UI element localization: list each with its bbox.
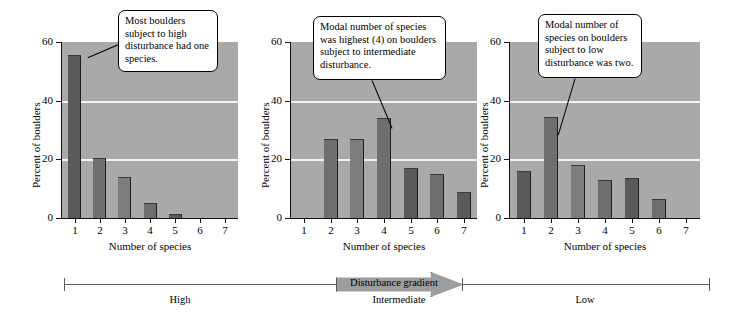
x-tick-label-4: 4 [598, 225, 612, 236]
gradient-line-right [462, 284, 709, 285]
x-tick-1 [304, 219, 305, 223]
y-tick-label-0: 0 [479, 212, 501, 223]
x-tick-label-7: 7 [457, 225, 471, 236]
x-tick-2 [331, 219, 332, 223]
x-tick-label-3: 3 [350, 225, 364, 236]
x-tick-5 [411, 219, 412, 223]
y-tick-label-0: 0 [31, 212, 53, 223]
x-tick-label-2: 2 [544, 225, 558, 236]
x-tick-3 [357, 219, 358, 223]
x-axis-label-2: Number of species [291, 240, 477, 252]
gridline-40 [510, 101, 700, 103]
x-tick-6 [659, 219, 660, 223]
gradient-tier-high: High [140, 294, 220, 305]
x-tick-label-4: 4 [143, 225, 157, 236]
bar-3 [118, 177, 131, 218]
callout-low-disturbance: Modal number of species on boulders subj… [538, 14, 642, 78]
x-tick-label-4: 4 [377, 225, 391, 236]
y-tick-40 [285, 101, 290, 102]
x-tick-3 [125, 219, 126, 223]
gradient-arrow-label: Disturbance gradient [339, 277, 449, 288]
callout-intermediate-disturbance: Modal number of species was highest (4) … [313, 16, 446, 80]
disturbance-gradient-axis: Disturbance gradient High Intermediate L… [0, 258, 733, 312]
y-tick-label-60: 60 [260, 36, 282, 47]
bar-3 [350, 139, 364, 218]
y-axis-label-3: Percent of boulders [478, 102, 490, 188]
y-tick-label-20: 20 [31, 153, 53, 164]
gridline-40 [62, 101, 238, 103]
x-tick-label-6: 6 [652, 225, 666, 236]
bar-6 [430, 174, 444, 218]
gridline-20 [62, 159, 238, 161]
x-tick-label-2: 2 [324, 225, 338, 236]
x-tick-5 [175, 219, 176, 223]
y-tick-label-40: 40 [479, 95, 501, 106]
y-tick-40 [56, 101, 61, 102]
x-tick-7 [464, 219, 465, 223]
y-axis-label-2: Percent of boulders [259, 102, 271, 188]
bar-3 [571, 165, 585, 218]
gradient-tier-intermediate: Intermediate [359, 294, 439, 305]
y-tick-label-60: 60 [31, 36, 53, 47]
y-tick-60 [504, 42, 509, 43]
bar-2 [544, 117, 558, 218]
x-tick-label-1: 1 [68, 225, 82, 236]
y-tick-60 [56, 42, 61, 43]
y-tick-20 [285, 159, 290, 160]
bar-4 [598, 180, 612, 218]
gradient-tier-low: Low [545, 294, 625, 305]
x-tick-4 [605, 219, 606, 223]
y-tick-label-0: 0 [260, 212, 282, 223]
x-tick-2 [100, 219, 101, 223]
y-tick-20 [504, 159, 509, 160]
y-axis-label-1: Percent of boulders [30, 102, 42, 188]
bar-7 [457, 192, 471, 218]
gradient-line-left [64, 284, 336, 285]
x-tick-7 [225, 219, 226, 223]
x-tick-6 [200, 219, 201, 223]
x-axis-label-1: Number of species [62, 240, 238, 252]
x-tick-5 [632, 219, 633, 223]
x-tick-3 [578, 219, 579, 223]
x-tick-2 [551, 219, 552, 223]
x-tick-label-6: 6 [193, 225, 207, 236]
bar-5 [404, 168, 418, 218]
x-tick-label-7: 7 [679, 225, 693, 236]
y-tick-label-20: 20 [479, 153, 501, 164]
x-tick-label-1: 1 [297, 225, 311, 236]
gridline-40 [291, 101, 477, 103]
y-tick-60 [285, 42, 290, 43]
bar-6 [652, 199, 666, 218]
x-tick-7 [686, 219, 687, 223]
y-tick-40 [504, 101, 509, 102]
gradient-cap-right [709, 278, 710, 291]
x-tick-4 [384, 219, 385, 223]
bar-5 [625, 178, 639, 218]
x-tick-4 [150, 219, 151, 223]
x-tick-label-7: 7 [218, 225, 232, 236]
y-axis-line-1 [61, 42, 62, 218]
bar-2 [93, 158, 106, 218]
y-tick-label-60: 60 [479, 36, 501, 47]
x-tick-label-2: 2 [93, 225, 107, 236]
bar-4 [377, 118, 391, 218]
x-tick-1 [524, 219, 525, 223]
x-tick-1 [75, 219, 76, 223]
x-tick-label-5: 5 [404, 225, 418, 236]
bar-1 [68, 55, 81, 218]
x-tick-label-5: 5 [168, 225, 182, 236]
y-tick-0 [285, 218, 290, 219]
bar-4 [144, 203, 157, 218]
y-tick-label-20: 20 [260, 153, 282, 164]
y-tick-label-40: 40 [260, 95, 282, 106]
y-tick-20 [56, 159, 61, 160]
bar-2 [324, 139, 338, 218]
callout-high-disturbance: Most boulders subject to high disturbanc… [118, 10, 218, 72]
boulder-species-figure: Percent of boulders Number of species 02… [0, 0, 733, 312]
y-tick-0 [56, 218, 61, 219]
y-axis-line-3 [509, 42, 510, 218]
y-tick-0 [504, 218, 509, 219]
x-tick-label-3: 3 [118, 225, 132, 236]
x-axis-label-3: Number of species [510, 240, 700, 252]
gridline-20 [510, 159, 700, 161]
